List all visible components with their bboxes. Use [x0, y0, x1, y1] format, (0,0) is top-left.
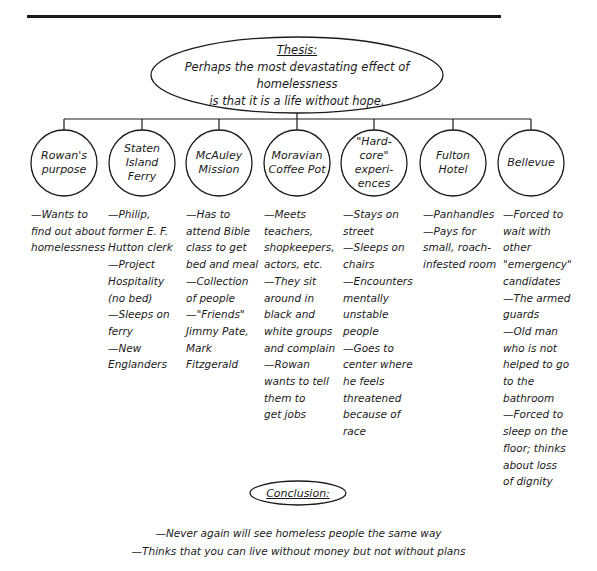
thesis-heading: Thesis:: [152, 42, 442, 59]
conclusion-heading: Conclusion:: [253, 487, 343, 500]
details-hard-core-experiences: —Stays on street —Sleeps on chairs —Enco…: [343, 206, 425, 440]
node-hard-core-experiences: "Hard-core" experi-ences: [343, 130, 405, 196]
thesis-box: Thesis: Perhaps the most devastating eff…: [152, 42, 442, 110]
conclusion-point: —Thinks that you can live without money …: [0, 545, 597, 557]
node-label: "Hard-core" experi-ences: [343, 135, 405, 191]
node-label: McAuley Mission: [188, 149, 250, 177]
node-label: Fulton Hotel: [422, 149, 484, 177]
node-fulton-hotel: Fulton Hotel: [422, 130, 484, 196]
conclusion-point: —Never again will see homeless people th…: [0, 527, 597, 539]
node-label: Moravian Coffee Pot: [266, 149, 328, 177]
node-label: Staten Island Ferry: [111, 142, 173, 184]
details-fulton-hotel: —Panhandles —Pays for small, roach- infe…: [423, 206, 505, 273]
details-bellevue: —Forced to wait with other "emergency" c…: [503, 206, 585, 490]
details-staten-island-ferry: —Philip, former E. F. Hutton clerk —Proj…: [108, 206, 190, 373]
details-moravian-coffee-pot: —Meets teachers, shopkeepers, actors, et…: [264, 206, 346, 423]
details-rowans-purpose: —Wants to find out about homelessness: [31, 206, 113, 256]
thesis-text-line2: is that it is a life without hope.: [152, 93, 442, 110]
node-bellevue: Bellevue: [500, 130, 562, 196]
thesis-text-line1: Perhaps the most devastating effect of h…: [152, 59, 442, 93]
node-label: Bellevue: [507, 156, 554, 170]
node-staten-island-ferry: Staten Island Ferry: [111, 130, 173, 196]
node-mcauley-mission: McAuley Mission: [188, 130, 250, 196]
node-rowans-purpose: Rowan's purpose: [33, 130, 95, 196]
details-mcauley-mission: —Has to attend Bible class to get bed an…: [186, 206, 268, 373]
node-label: Rowan's purpose: [33, 149, 95, 177]
node-moravian-coffee-pot: Moravian Coffee Pot: [266, 130, 328, 196]
